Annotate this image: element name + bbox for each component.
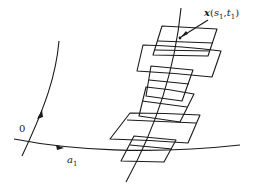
surface-patch-1 — [153, 26, 217, 56]
arrow-leader-icon — [181, 31, 188, 37]
curve-label-sub: 1 — [73, 160, 77, 168]
left-curve — [22, 41, 59, 156]
diagram-figure: x(s1,t1) 0 a1 — [0, 0, 254, 190]
point-label: x(s1,t1) — [204, 8, 239, 21]
diagram-canvas — [0, 0, 254, 190]
surface-patch-4 — [139, 87, 194, 122]
central-curve — [126, 8, 181, 182]
point-label-close: ) — [235, 7, 239, 18]
arrow-left-curve-tip-icon — [37, 110, 43, 119]
origin-label: 0 — [19, 124, 25, 134]
curve-a1-label: a1 — [67, 155, 77, 168]
point-dot — [179, 37, 182, 40]
